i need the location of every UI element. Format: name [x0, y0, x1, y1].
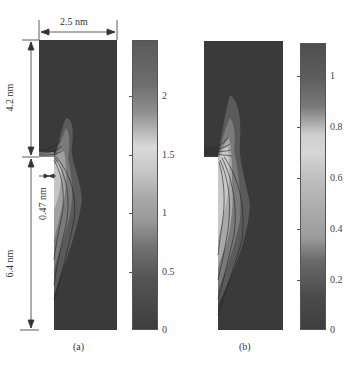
- tick-mark: [297, 280, 300, 281]
- tick-mark: [297, 76, 300, 77]
- colorbar-b: [300, 43, 326, 330]
- colorbar-b-tick: 0.2: [330, 275, 343, 285]
- colorbar-b-tick: 0.6: [330, 173, 343, 183]
- colorbar-b-tick: 0.4: [330, 224, 343, 234]
- caption-b: (b): [239, 341, 251, 352]
- tick-mark: [297, 178, 300, 179]
- tick-mark: [297, 229, 300, 230]
- colorbar-b-tick: 1: [330, 71, 335, 81]
- tick-mark: [297, 127, 300, 128]
- colorbar-b-tick: 0: [330, 325, 335, 335]
- colorbar-b-tick: 0.8: [330, 122, 343, 132]
